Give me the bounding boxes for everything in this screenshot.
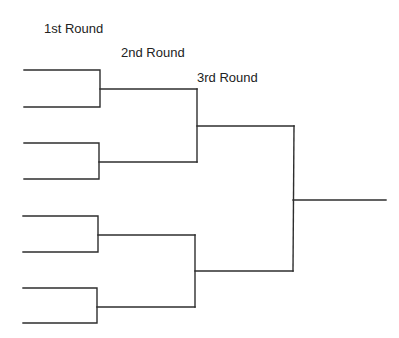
- round-1-bracket-1: [24, 70, 197, 107]
- round-2-bracket-1: [197, 89, 294, 162]
- round-2-bracket-2: [195, 235, 293, 307]
- round-3-bracket: [293, 126, 294, 271]
- round-1-bracket-3: [23, 216, 195, 252]
- bracket-diagram: [0, 0, 399, 338]
- round-1-bracket-4: [23, 288, 195, 323]
- round-1-bracket-2: [24, 143, 197, 179]
